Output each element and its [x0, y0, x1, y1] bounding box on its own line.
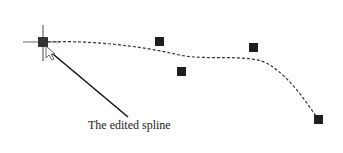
caption-label: The edited spline: [88, 118, 171, 133]
leader-line: [47, 49, 128, 117]
control-point[interactable]: [249, 43, 258, 52]
control-point[interactable]: [155, 37, 164, 46]
control-point[interactable]: [314, 115, 323, 124]
spline-diagram: [0, 0, 343, 153]
control-point[interactable]: [177, 67, 186, 76]
